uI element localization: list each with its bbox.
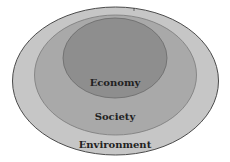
economy-label: Economy — [90, 77, 142, 88]
nested-sustainability-diagram: Economy Society Environment — [0, 0, 230, 162]
society-label: Society — [95, 111, 137, 122]
environment-label: Environment — [79, 139, 152, 150]
